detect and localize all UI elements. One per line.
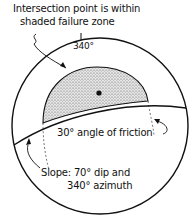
label-slope-line1: Slope: 70° dip and bbox=[41, 167, 130, 178]
slope-great-circle bbox=[14, 106, 186, 145]
label-intersection-line2: shaded failure zone bbox=[20, 16, 115, 27]
friction-circle-dashed bbox=[43, 123, 49, 170]
leader-slope bbox=[28, 145, 41, 168]
label-intersection-line1: Intersection point is within bbox=[13, 3, 140, 14]
failure-zone bbox=[43, 67, 148, 123]
label-azimuth-340: 340° bbox=[73, 41, 94, 52]
label-slope-line2: 340° azimuth bbox=[67, 180, 132, 191]
intersection-point bbox=[96, 90, 101, 95]
leader-friction bbox=[157, 121, 167, 134]
label-friction-angle: 30° angle of friction bbox=[57, 127, 153, 138]
